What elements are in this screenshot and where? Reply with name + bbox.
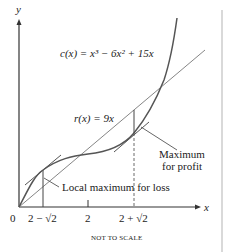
x-axis: x 0 2 − √2 2 2 + √2 bbox=[10, 200, 209, 224]
x-axis-label: x bbox=[203, 201, 209, 213]
y-axis-arrow-icon bbox=[17, 19, 22, 25]
tick-label-2-minus-root2: 2 − √2 bbox=[28, 212, 57, 224]
annotation-local-max-loss: Local maximum for loss bbox=[62, 181, 170, 193]
tick-label-2-plus-root2: 2 + √2 bbox=[119, 212, 148, 224]
footer-note: NOT TO SCALE bbox=[91, 234, 142, 242]
tick-label-2: 2 bbox=[85, 212, 91, 224]
annotation-profit-line2: for profit bbox=[162, 160, 202, 172]
leader-max-profit bbox=[141, 127, 177, 150]
revenue-function-label: r(x) = 9x bbox=[74, 112, 114, 125]
tangent-max-profit bbox=[114, 122, 149, 152]
profit-loss-diagram: y x 0 2 − √2 2 2 + √2 c(x) = x bbox=[0, 0, 234, 252]
origin-label: 0 bbox=[10, 212, 16, 224]
y-axis-label: y bbox=[15, 3, 21, 15]
cost-function-label: c(x) = x³ − 6x² + 15x bbox=[60, 47, 154, 60]
y-axis: y bbox=[15, 3, 22, 207]
x-axis-arrow-icon bbox=[195, 205, 201, 210]
annotation-profit-line1: Maximum bbox=[159, 148, 205, 160]
